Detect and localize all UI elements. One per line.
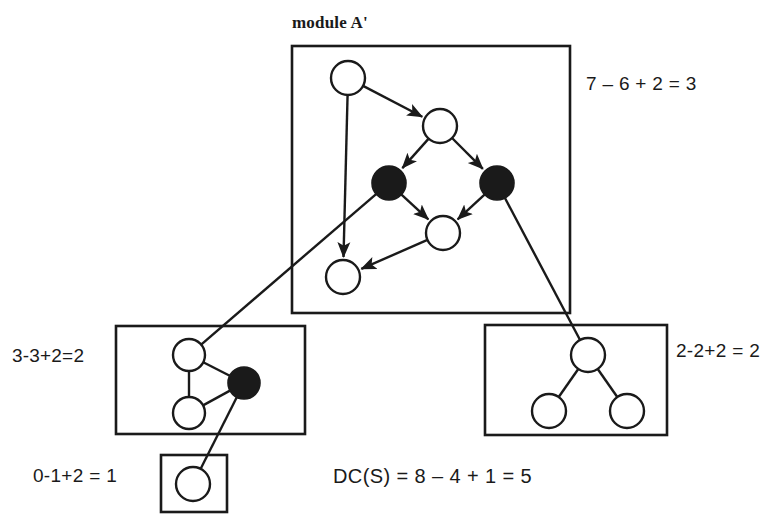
module-boxes (116, 46, 667, 512)
diagram-canvas: module A' 7 – 6 + 2 = 3 3-3+2=2 2-2+2 = … (0, 0, 784, 530)
formula-module-small: 0-1+2 = 1 (33, 466, 117, 485)
directed-edge (363, 86, 422, 117)
undirected-edge (559, 369, 579, 397)
undirected-edge (203, 362, 229, 375)
undirected-edge (598, 369, 618, 397)
node-filled (480, 166, 514, 200)
directed-edge (361, 240, 427, 269)
directed-edge (458, 195, 485, 220)
node-empty (423, 109, 457, 143)
directed-edge (402, 139, 428, 168)
module-box-module-left (116, 326, 305, 434)
node-empty (532, 394, 566, 428)
formula-module-left: 3-3+2=2 (12, 346, 84, 365)
node-empty (173, 397, 205, 429)
formula-total-dcs: DC(S) = 8 – 4 + 1 = 5 (333, 466, 532, 486)
node-empty (571, 338, 605, 372)
module-title-label: module A' (292, 14, 368, 31)
node-empty (176, 467, 210, 501)
inter-module-edges (201, 194, 580, 469)
undirected-edge (203, 391, 230, 406)
node-empty (426, 216, 460, 250)
node-empty (173, 339, 205, 371)
directed-edge (401, 195, 428, 220)
module-edges (189, 86, 617, 405)
node-empty (326, 260, 360, 294)
node-filled (228, 367, 260, 399)
node-empty (331, 61, 365, 95)
formula-module-right: 2-2+2 = 2 (676, 341, 760, 360)
node-filled (372, 166, 406, 200)
formula-module-a-prime: 7 – 6 + 2 = 3 (586, 74, 697, 93)
directed-edge (452, 138, 483, 169)
directed-edge (344, 95, 348, 257)
node-empty (610, 394, 644, 428)
